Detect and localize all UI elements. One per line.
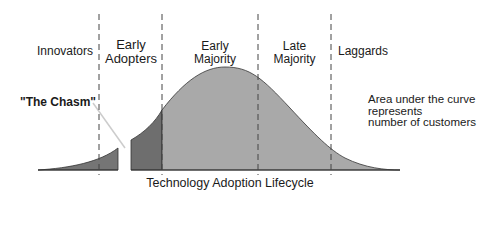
diagram-title: Technology Adoption Lifecycle	[130, 177, 330, 190]
innovators-area	[38, 148, 118, 170]
segment-label: Majority	[258, 53, 331, 66]
segment-label: Majority	[180, 53, 250, 66]
segment-label: Innovators	[30, 45, 100, 58]
area-note: Area under the curve represents number o…	[368, 94, 490, 129]
segment-early-adopters: Early Adopters	[100, 38, 162, 66]
early-adopters-area	[131, 110, 162, 170]
chasm-label: "The Chasm"	[20, 96, 100, 109]
segment-label: Laggards	[338, 45, 398, 58]
segment-late-majority: Late Majority	[258, 40, 331, 66]
note-line: number of customers	[368, 117, 490, 129]
majority-area	[162, 67, 400, 170]
segment-label: Early	[100, 38, 162, 52]
segment-early-majority: Early Majority	[180, 40, 250, 66]
segment-innovators: Innovators	[30, 45, 100, 58]
note-line: Area under the curve	[368, 94, 490, 106]
segment-label: Adopters	[100, 52, 162, 66]
segment-laggards: Laggards	[338, 45, 398, 58]
chasm-line	[93, 103, 125, 148]
